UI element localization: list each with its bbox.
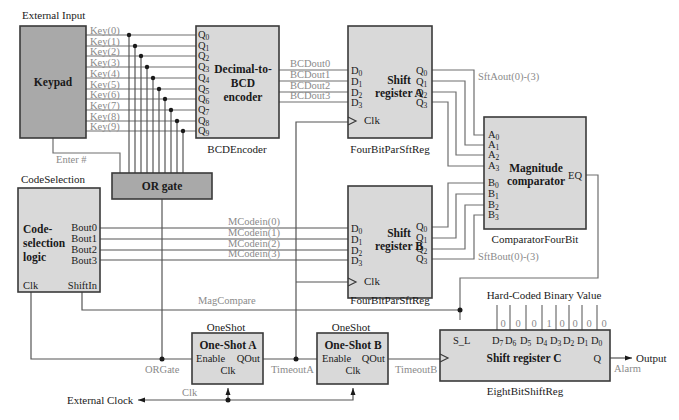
svg-text:SftAout(0)-(3): SftAout(0)-(3) — [478, 71, 540, 83]
svg-text:Decimal-to-: Decimal-to- — [214, 63, 272, 75]
svg-text:Clk: Clk — [182, 387, 198, 398]
svg-text:BCDout3: BCDout3 — [290, 90, 330, 101]
svg-text:encoder: encoder — [224, 91, 263, 103]
svg-text:comparator: comparator — [507, 175, 565, 188]
shift-register-b-caption: FourBitParSftReg — [350, 294, 430, 306]
svg-text:TimeoutA: TimeoutA — [271, 364, 314, 375]
mcode-wires — [100, 228, 348, 260]
svg-text:SftBout(0)-(3): SftBout(0)-(3) — [478, 251, 539, 263]
svg-text:MagCompare: MagCompare — [198, 295, 256, 306]
svg-text:0: 0 — [586, 318, 591, 329]
svg-text:ShiftIn: ShiftIn — [68, 280, 98, 291]
hardcoded-bits: 0 0 0 1 0 0 0 0 — [500, 318, 606, 329]
keypad-block: External Input Keypad — [20, 9, 86, 138]
hardcoded-title: Hard-Coded Binary Value — [487, 289, 602, 301]
svg-text:Bout3: Bout3 — [71, 255, 97, 266]
svg-text:Magnitude: Magnitude — [509, 162, 563, 175]
svg-text:Bout1: Bout1 — [71, 233, 97, 244]
svg-text:BCDout0: BCDout0 — [290, 58, 330, 69]
shift-register-c-caption: EightBitShiftReg — [487, 385, 564, 397]
or-gate-block: OR gate — [112, 173, 212, 199]
svg-text:0: 0 — [559, 318, 564, 329]
sftb-wires — [432, 183, 484, 259]
keypad-label: Keypad — [34, 76, 73, 89]
svg-text:BCDout1: BCDout1 — [290, 69, 330, 80]
svg-text:S_L: S_L — [453, 335, 471, 346]
svg-text:Bout2: Bout2 — [71, 244, 97, 255]
encoder-caption: BCDEncoder — [207, 143, 267, 155]
svg-text:EQ: EQ — [568, 170, 582, 181]
svg-text:Clk: Clk — [23, 280, 39, 291]
svg-text:TimeoutB: TimeoutB — [395, 364, 437, 375]
svg-text:Enable: Enable — [322, 353, 351, 364]
svg-text:QOut: QOut — [362, 353, 385, 364]
svg-text:0: 0 — [601, 318, 606, 329]
svg-text:0: 0 — [572, 318, 577, 329]
svg-text:MCodein(3): MCodein(3) — [228, 248, 280, 260]
svg-text:OneShot: OneShot — [332, 321, 371, 333]
svg-text:One-Shot A: One-Shot A — [199, 339, 257, 351]
svg-text:Clk: Clk — [345, 365, 361, 376]
svg-text:Clk: Clk — [364, 275, 380, 287]
svg-text:ORGate: ORGate — [145, 364, 180, 375]
svg-text:Clk: Clk — [220, 365, 236, 376]
svg-text:One-Shot B: One-Shot B — [324, 339, 382, 351]
external-clock-label: External Clock — [67, 394, 134, 406]
diagram-canvas: External Input Keypad Decimal-to- BCD en… — [0, 0, 679, 420]
svg-text:0: 0 — [500, 318, 505, 329]
svg-text:Enable: Enable — [196, 353, 225, 364]
code-selection-block: CodeSelection Code- selection logic Bout… — [18, 173, 100, 292]
svg-text:Shift: Shift — [387, 227, 411, 239]
sfta-wires — [432, 70, 484, 166]
svg-text:logic: logic — [23, 251, 46, 264]
svg-text:Clk: Clk — [364, 114, 380, 126]
encoder-input-pins: Q0 Q1 Q2 Q3 Q4 Q5 Q6 Q7 Q8 Q9 — [198, 29, 210, 138]
svg-text:Shift: Shift — [387, 74, 411, 86]
svg-text:Key(9): Key(9) — [90, 121, 120, 133]
svg-text:BCD: BCD — [231, 77, 255, 89]
svg-text:Enter #: Enter # — [56, 154, 87, 165]
svg-text:Q: Q — [593, 353, 601, 364]
svg-text:QOut: QOut — [237, 353, 260, 364]
svg-text:0: 0 — [515, 318, 520, 329]
comparator-caption: ComparatorFourBit — [492, 233, 579, 245]
shift-register-a-caption: FourBitParSftReg — [350, 143, 430, 155]
oneshot-b-block: OneShot One-Shot B Enable QOut Clk — [317, 321, 388, 384]
oneshot-a-block: OneShot One-Shot A Enable QOut Clk — [192, 321, 263, 384]
svg-text:OneShot: OneShot — [207, 321, 246, 333]
keypad-caption: External Input — [22, 9, 85, 21]
svg-text:selection: selection — [23, 237, 66, 249]
svg-text:0: 0 — [531, 318, 536, 329]
svg-text:Bout0: Bout0 — [71, 222, 97, 233]
svg-text:Alarm: Alarm — [614, 363, 641, 374]
or-gate-label: OR gate — [142, 180, 183, 193]
svg-text:Shift register C: Shift register C — [487, 352, 562, 365]
code-selection-caption: CodeSelection — [21, 173, 86, 185]
svg-text:Code-: Code- — [23, 223, 53, 235]
svg-text:1: 1 — [546, 318, 551, 329]
